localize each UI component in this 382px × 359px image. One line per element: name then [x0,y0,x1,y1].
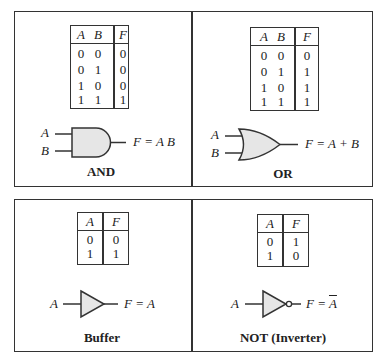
not-output-expression: F = A [306,296,337,312]
not-output-prefix: F = [306,296,329,311]
not-input-a-label: A [231,296,239,312]
not-output-overbar-a: A [329,296,337,311]
not-gate-name: NOT (Inverter) [240,330,326,346]
